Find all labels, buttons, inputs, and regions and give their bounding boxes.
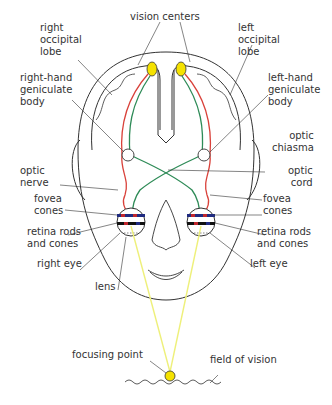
field-of-vision-line xyxy=(125,380,221,384)
label-fovea-cones-left: fovea cones xyxy=(263,193,292,217)
left-vision-center xyxy=(176,62,186,76)
label-left-occipital-lobe: left occipital lobe xyxy=(238,22,280,58)
right-eye-graphic xyxy=(117,208,145,236)
label-focusing-point: focusing point xyxy=(72,349,143,361)
label-optic-chiasma: optic chiasma xyxy=(272,130,314,154)
leader-lines xyxy=(60,22,268,383)
label-retina-right: retina rods and cones xyxy=(27,226,81,250)
nose xyxy=(152,200,180,250)
label-field-of-vision: field of vision xyxy=(210,354,277,366)
focusing-point-dot xyxy=(165,371,175,381)
brain-outline xyxy=(92,66,241,150)
label-right-occipital-lobe: right occipital lobe xyxy=(40,22,82,58)
label-right-hand-geniculate-body: right-hand geniculate body xyxy=(20,72,72,108)
right-geniculate-body xyxy=(122,149,134,161)
label-fovea-cones-right: fovea cones xyxy=(34,193,63,217)
left-red-pathway xyxy=(185,74,210,218)
right-vision-center xyxy=(147,62,157,76)
left-eye-graphic xyxy=(187,208,215,236)
mouth xyxy=(148,270,184,280)
right-red-pathway xyxy=(122,74,148,218)
label-lens: lens xyxy=(95,281,115,293)
right-green-pathway xyxy=(129,76,200,218)
left-green-pathway xyxy=(132,76,203,218)
brain-folds xyxy=(96,74,236,120)
label-vision-centers: vision centers xyxy=(130,11,200,23)
label-left-eye: left eye xyxy=(250,258,288,270)
label-retina-left: retina rods and cones xyxy=(257,226,311,250)
label-optic-cord: optic cord xyxy=(288,165,313,189)
label-left-hand-geniculate-body: left-hand geniculate body xyxy=(268,72,320,108)
label-optic-nerve: optic nerve xyxy=(20,165,49,189)
label-right-eye: right eye xyxy=(37,258,82,270)
left-geniculate-body xyxy=(198,149,210,161)
